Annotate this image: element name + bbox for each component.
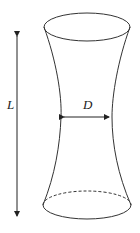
length-label: L bbox=[7, 98, 14, 111]
left-profile bbox=[43, 27, 61, 205]
right-profile bbox=[112, 27, 131, 205]
top-rim bbox=[44, 13, 130, 41]
bottom-rim-back bbox=[43, 191, 131, 205]
hyperboloid-diagram bbox=[0, 0, 140, 233]
bottom-rim-front bbox=[43, 205, 131, 219]
diameter-label: D bbox=[83, 98, 92, 111]
